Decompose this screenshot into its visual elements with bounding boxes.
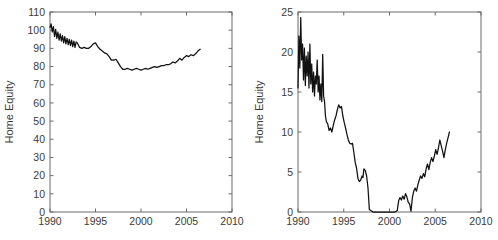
y-axis-title: Home Equity bbox=[253, 80, 265, 143]
y-tick-label: 40 bbox=[33, 133, 45, 145]
left-plot-group: 0102030405060708090100110199019952000200… bbox=[3, 6, 244, 227]
y-tick-label: 70 bbox=[33, 78, 45, 90]
y-tick-label: 100 bbox=[27, 24, 45, 36]
x-tick-label: 2010 bbox=[469, 215, 493, 227]
y-tick-label: 20 bbox=[33, 169, 45, 181]
right-chart-svg: 051015202519901995200020052010Home Equit… bbox=[249, 0, 498, 240]
x-tick-label: 1990 bbox=[286, 215, 310, 227]
x-tick-label: 1990 bbox=[38, 215, 62, 227]
x-tick-label: 2000 bbox=[129, 215, 153, 227]
chart-panel-right: 051015202519901995200020052010Home Equit… bbox=[249, 0, 498, 240]
y-tick-label: 50 bbox=[33, 115, 45, 127]
x-tick-label: 2005 bbox=[424, 215, 448, 227]
y-axis-title: Home Equity bbox=[3, 80, 15, 143]
right-plot-group: 051015202519901995200020052010Home Equit… bbox=[253, 6, 493, 227]
x-tick-label: 2005 bbox=[175, 215, 199, 227]
y-tick-label: 90 bbox=[33, 42, 45, 54]
x-tick-label: 2010 bbox=[220, 215, 244, 227]
chart-panel-left: 0102030405060708090100110199019952000200… bbox=[0, 0, 249, 240]
data-series-line bbox=[50, 24, 200, 70]
y-tick-label: 10 bbox=[33, 188, 45, 200]
y-tick-label: 5 bbox=[287, 166, 293, 178]
y-tick-label: 110 bbox=[28, 6, 45, 18]
y-tick-label: 80 bbox=[33, 60, 45, 72]
y-tick-label: 10 bbox=[281, 126, 293, 138]
x-tick-label: 2000 bbox=[378, 215, 402, 227]
x-tick-label: 1995 bbox=[84, 215, 108, 227]
plot-box bbox=[50, 12, 232, 212]
y-tick-label: 30 bbox=[33, 151, 45, 163]
y-tick-label: 20 bbox=[281, 46, 293, 58]
y-tick-label: 25 bbox=[281, 6, 293, 18]
y-tick-label: 60 bbox=[33, 97, 45, 109]
figure-container: 0102030405060708090100110199019952000200… bbox=[0, 0, 498, 240]
left-chart-svg: 0102030405060708090100110199019952000200… bbox=[0, 0, 249, 240]
y-tick-label: 15 bbox=[281, 86, 293, 98]
data-series-line bbox=[298, 18, 449, 212]
x-tick-label: 1995 bbox=[332, 215, 356, 227]
